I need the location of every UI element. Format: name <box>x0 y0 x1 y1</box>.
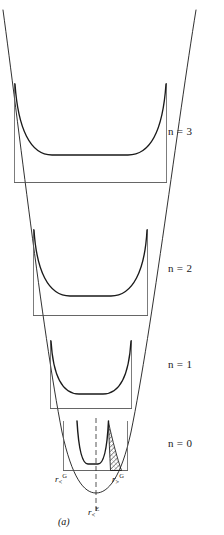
level-panel-n3 <box>14 83 167 183</box>
turning-point-superscript: G <box>62 472 67 479</box>
figure-caption: (a) <box>58 516 70 527</box>
turning-point-label-r-lesser-ground: r<G <box>55 472 67 485</box>
level-label-n3: n = 3 <box>168 125 192 137</box>
turning-point-label-r-lesser-excited: r<E <box>88 505 99 518</box>
probability-curve-n1 <box>51 341 131 394</box>
level-panel-n0 <box>63 418 128 514</box>
level-panel-n1 <box>50 340 132 409</box>
figure-container: n = 3 n = 2 n = 1 n = 0 r<G r>G r<E (a) <box>0 0 224 535</box>
turning-point-subscript: < <box>59 478 63 485</box>
probability-curve-n0 <box>77 421 109 464</box>
outer-potential-parabola <box>3 10 196 493</box>
level-label-n1: n = 1 <box>168 358 192 370</box>
turning-point-superscript: G <box>119 472 124 479</box>
level-panel-n2 <box>33 229 148 316</box>
level-label-n0: n = 0 <box>168 437 192 449</box>
probability-curve-n2 <box>34 230 147 296</box>
turning-point-subscript: > <box>116 478 120 485</box>
level-label-n2: n = 2 <box>168 262 192 274</box>
probability-curve-n3 <box>15 84 166 155</box>
turning-point-label-r-greater-ground: r>G <box>112 472 124 485</box>
turning-point-superscript: E <box>95 505 99 512</box>
turning-point-subscript: < <box>92 511 96 518</box>
franck-condon-shaded-region <box>109 422 122 471</box>
